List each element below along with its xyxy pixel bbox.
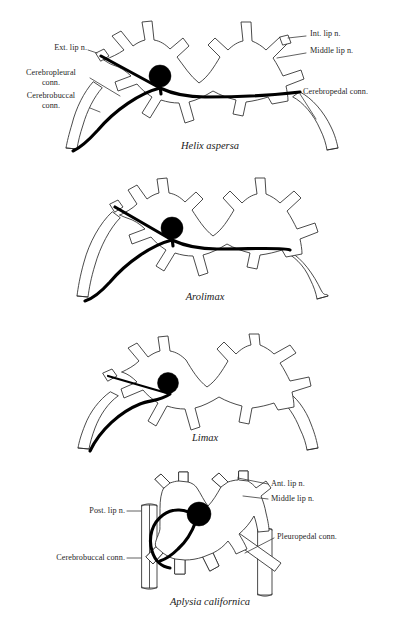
label-pleuropedal-conn: Pleuropedal conn. [277,532,387,542]
label-post-lip-n: Post. lip n. [55,506,125,516]
label-cerebrobuccal-conn: Cerebrobuccal conn. [14,91,88,110]
panel-aplysia-californica [127,471,281,596]
helix-cerebropedal-tube [293,92,338,150]
label-cerebrobuccal-conn-aplysia: Cerebrobuccal conn. [18,553,125,563]
limax-left-nerve-tip [103,369,117,381]
limax-neuron-soma [158,373,179,394]
label-ext-lip-n: Ext. lip n. [21,43,87,53]
aplysia-nerve-tube-br [203,553,219,571]
leader-ext-lip-n [88,50,97,53]
leader-cerebrobuccal-conn [90,108,100,112]
arolimax-left-tube [77,212,120,297]
comparative-ganglia-figure: Ext. lip n. Cerebropleural conn. Cerebro… [0,0,418,630]
label-middle-lip-n-aplysia: Middle lip n. [271,494,366,504]
aplysia-nerve-tube-tl2 [179,472,188,482]
species-label-limax: Limax [145,432,265,443]
label-cerebropedal-conn: Cerebropedal conn. [303,87,415,97]
label-int-lip-n: Int. lip n. [310,29,400,39]
label-ant-lip-n: Ant. lip n. [271,479,361,489]
label-cerebropleural-conn: Cerebropleural conn. [14,68,88,87]
aplysia-neuron-soma [187,502,211,526]
arolimax-soma-stalk [172,238,173,246]
species-label-helix-aspersa: Helix aspersa [150,140,270,151]
helix-neuron-soma [149,65,171,87]
aplysia-nerve-tube-bc [175,559,185,574]
helix-soma-stalk [160,86,161,94]
limax-ganglion-outline [121,334,311,430]
leader-int-lip-n [288,36,306,38]
label-middle-lip-n: Middle lip n. [310,46,405,56]
arolimax-neuron-soma [161,217,183,239]
panel-helix-aspersa [66,21,338,151]
arolimax-right-tube [283,251,328,299]
species-label-aplysia-californica: Aplysia californica [145,596,275,607]
species-label-arolimax: Arolimax [145,291,265,302]
panel-arolimax [77,178,328,301]
leader-middle-lip-n [277,53,306,58]
helix-ganglion-outline [104,21,304,123]
